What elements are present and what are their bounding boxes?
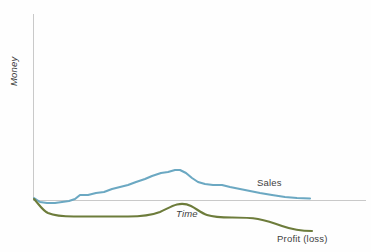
series-label-profit: Profit (loss): [277, 234, 328, 244]
line-chart: Money Time Sales Profit (loss): [0, 0, 371, 252]
series-label-sales: Sales: [257, 178, 282, 188]
x-axis-label: Time: [176, 209, 198, 219]
series-line-profit: [34, 199, 312, 231]
y-axis-label: Money: [9, 56, 19, 86]
